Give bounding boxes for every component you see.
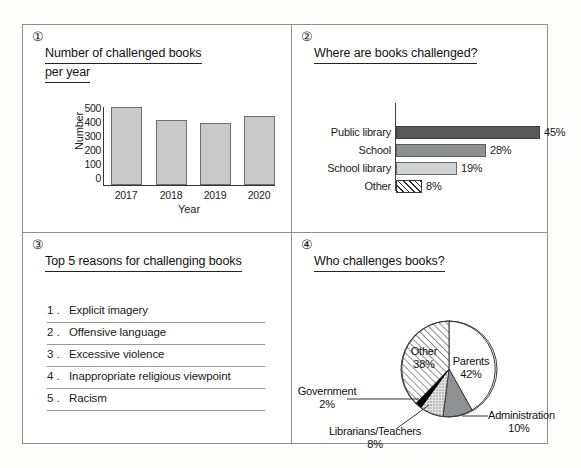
y-axis-ticks: 500 400 300 200 100 0 [75, 107, 101, 184]
list-item-text: Racism [69, 392, 107, 404]
pie-label-other-pct: 38% [402, 358, 446, 371]
list-item: 2 . Offensive language [47, 323, 265, 345]
y-tick-100: 100 [84, 159, 101, 169]
panel-1-title: Number of challenged books per year [45, 45, 202, 83]
panel-2-title-text: Where are books challenged? [314, 45, 477, 64]
hbar-public-library [396, 126, 540, 139]
y-tick-400: 400 [84, 117, 101, 127]
pie-label-parents-name: Parents [453, 355, 490, 367]
x-tick-2020: 2020 [236, 189, 282, 201]
x-tick-2019: 2019 [192, 189, 238, 201]
hbar-other [396, 180, 422, 193]
pie-label-administration-name: Administration [488, 409, 555, 421]
list-item-number: 5 . [47, 392, 60, 404]
panel-3-number: ③ [32, 238, 44, 251]
infographic-frame: ① Number of challenged books per year Nu… [22, 24, 548, 444]
panel-2-number: ② [301, 30, 313, 43]
list-item-number: 1 . [47, 304, 60, 316]
x-axis-label: Year [103, 203, 275, 215]
panel-1-title-line2: per year [45, 64, 90, 83]
pie-label-parents-pct: 42% [442, 368, 500, 381]
panel-1-books-per-year: ① Number of challenged books per year Nu… [23, 25, 291, 232]
list-item: 3 . Excessive violence [47, 345, 265, 367]
pie-label-other-name: Other [411, 345, 438, 357]
hbar-label-public-library: Public library [300, 125, 391, 140]
pie-label-government-name: Government [298, 385, 357, 397]
pie-label-parents: Parents 42% [442, 355, 500, 381]
panel-1-number: ① [32, 30, 44, 43]
hbar-row-other: Other 8% [300, 179, 545, 194]
bar-2019 [200, 123, 231, 185]
hbar-row-public-library: Public library 45% [300, 125, 545, 140]
pie-label-administration-pct: 10% [488, 422, 550, 435]
y-tick-200: 200 [84, 145, 101, 155]
list-item-number: 4 . [47, 370, 60, 382]
pie-label-government-pct: 2% [290, 398, 364, 411]
pie-label-librarians-teachers-pct: 8% [320, 438, 430, 451]
hbar-value-other: 8% [426, 179, 442, 194]
pie-label-administration: Administration 10% [488, 409, 550, 435]
y-tick-300: 300 [84, 131, 101, 141]
worksheet-page: ① Number of challenged books per year Nu… [0, 0, 581, 468]
panel-3-top-reasons: ③ Top 5 reasons for challenging books 1 … [23, 233, 291, 445]
hbar-value-public-library: 45% [544, 125, 565, 140]
hbar-row-school: School 28% [300, 143, 545, 158]
reasons-list: 1 . Explicit imagery 2 . Offensive langu… [47, 301, 265, 411]
list-item-text: Inappropriate religious viewpoint [69, 370, 231, 382]
pie-label-government: Government 2% [290, 385, 364, 411]
pie-label-librarians-teachers: Librarians/Teachers 8% [320, 425, 430, 451]
y-tick-0: 0 [95, 173, 101, 183]
bar-2018 [156, 120, 187, 185]
hbar-school-library [396, 162, 457, 175]
hbar-label-school-library: School library [300, 161, 391, 176]
list-item: 5 . Racism [47, 389, 265, 411]
bar-2017 [111, 107, 142, 185]
pie-label-other: Other 38% [402, 345, 446, 371]
vertical-bar-chart: Number 500 400 300 200 100 0 2017 2018 2 [53, 107, 279, 217]
list-item-number: 2 . [47, 326, 60, 338]
pie-label-librarians-teachers-name: Librarians/Teachers [329, 425, 421, 437]
list-item: 4 . Inappropriate religious viewpoint [47, 367, 265, 389]
pie-chart: Parents 42% Other 38% Government 2% Libr… [292, 233, 549, 445]
x-axis-line [103, 185, 275, 186]
list-item-number: 3 . [47, 348, 60, 360]
list-item-text: Offensive language [69, 326, 166, 338]
hbar-school [396, 144, 486, 157]
panel-3-title-text: Top 5 reasons for challenging books [45, 253, 242, 272]
panel-4-who-challenges: ④ Who challenges books? [292, 233, 549, 445]
list-item-text: Explicit imagery [69, 304, 148, 316]
panel-2-where-challenged: ② Where are books challenged? Public lib… [292, 25, 549, 232]
list-item-text: Excessive violence [69, 348, 164, 360]
hbar-value-school-library: 19% [461, 161, 482, 176]
horizontal-bar-chart: Public library 45% School 28% School lib… [300, 103, 545, 195]
panel-2-title: Where are books challenged? [314, 45, 477, 64]
bar-2020 [244, 116, 275, 185]
panel-1-title-line1: Number of challenged books [45, 45, 202, 64]
y-axis-line [103, 107, 104, 185]
hbar-value-school: 28% [490, 143, 511, 158]
x-tick-2018: 2018 [148, 189, 194, 201]
hbar-label-other: Other [300, 179, 391, 194]
hbar-label-school: School [300, 143, 391, 158]
panel-3-title: Top 5 reasons for challenging books [45, 253, 242, 272]
x-tick-2017: 2017 [103, 189, 149, 201]
list-item: 1 . Explicit imagery [47, 301, 265, 323]
y-tick-500: 500 [84, 103, 101, 113]
hbar-row-school-library: School library 19% [300, 161, 545, 176]
